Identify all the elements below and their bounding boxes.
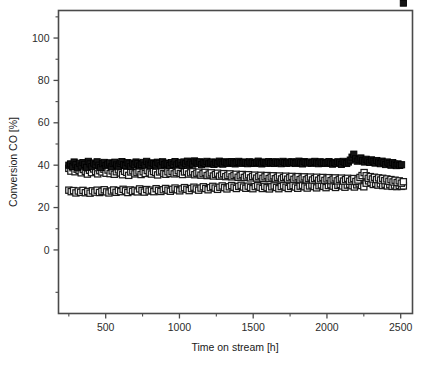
y-tick-label: 100 bbox=[32, 32, 50, 44]
data-point bbox=[398, 162, 404, 168]
x-tick-label: 500 bbox=[97, 321, 115, 333]
x-tick-label: 2000 bbox=[315, 321, 339, 333]
data-series-filled-upper bbox=[66, 0, 407, 171]
data-point bbox=[400, 179, 406, 185]
conversion-co-scatter-chart: 020406080100 5001000150020002500 Time on… bbox=[0, 0, 430, 366]
y-tick-label: 0 bbox=[44, 244, 50, 256]
y-axis-title: Conversion CO [%] bbox=[7, 117, 19, 207]
y-tick-label: 60 bbox=[38, 116, 50, 128]
chart-figure: 020406080100 5001000150020002500 Time on… bbox=[0, 0, 430, 366]
x-tick-label: 1000 bbox=[168, 321, 192, 333]
y-axis-tick-labels: 020406080100 bbox=[32, 32, 50, 256]
x-axis-title: Time on stream [h] bbox=[191, 341, 278, 353]
data-point bbox=[400, 0, 406, 6]
x-tick-label: 1500 bbox=[242, 321, 266, 333]
y-tick-label: 40 bbox=[38, 159, 50, 171]
x-axis-tick-labels: 5001000150020002500 bbox=[97, 321, 413, 333]
y-tick-label: 20 bbox=[38, 201, 50, 213]
y-tick-label: 80 bbox=[38, 74, 50, 86]
x-tick-label: 2500 bbox=[389, 321, 413, 333]
